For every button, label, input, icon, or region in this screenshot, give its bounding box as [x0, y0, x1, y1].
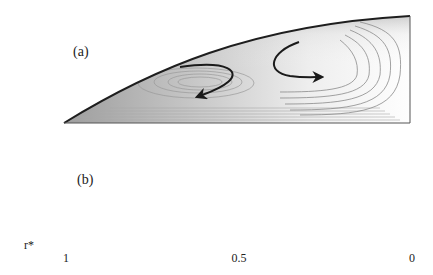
- figure: (a) (b) r* 1 0.5 0: [0, 0, 433, 275]
- tick-label-0: 0: [409, 251, 415, 266]
- tick-label-0-5: 0.5: [232, 251, 247, 266]
- panel-label-a: (a): [73, 44, 89, 60]
- panel-a-contours: [60, 10, 415, 128]
- tick-label-1: 1: [63, 251, 69, 266]
- panel-a: [60, 10, 415, 128]
- panel-label-b: (b): [77, 172, 93, 188]
- axis-variable-label: r*: [24, 238, 34, 253]
- figure-canvas: [0, 0, 433, 275]
